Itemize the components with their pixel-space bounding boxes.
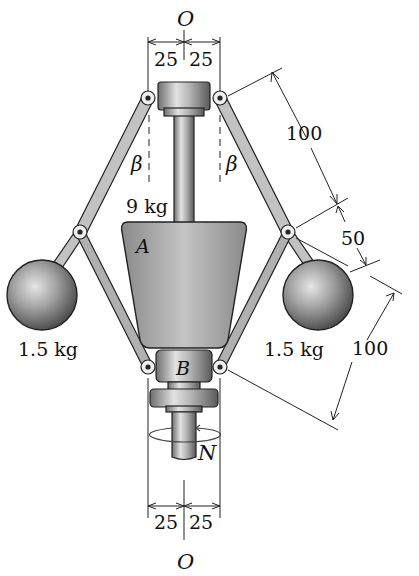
shaft <box>174 112 194 232</box>
governor-diagram: O O 25 25 25 25 100 50 100 β β 9 kg A B … <box>0 0 419 576</box>
left-ball-mass: 1.5 kg <box>18 338 78 360</box>
top-dim-left: 25 <box>154 48 178 70</box>
beta-label-left: β <box>130 152 143 176</box>
right-ball-mass: 1.5 kg <box>264 338 324 360</box>
center-mass-label: 9 kg <box>126 195 168 217</box>
top-collar <box>158 82 210 116</box>
axis-label-top: O <box>177 7 194 31</box>
link-dim-upper: 100 <box>286 122 322 144</box>
left-ball <box>7 260 77 330</box>
axis-label-bottom: O <box>177 550 194 574</box>
link-dim-middle: 50 <box>341 227 365 249</box>
right-ball <box>283 260 353 330</box>
diagram-svg: O O 25 25 25 25 100 50 100 β β 9 kg A B … <box>0 0 419 576</box>
top-dim-right: 25 <box>189 48 213 70</box>
bottom-dim-right: 25 <box>189 511 213 533</box>
beta-label-right: β <box>225 152 238 176</box>
collar-a-label: A <box>134 235 150 257</box>
rotation-label: N <box>197 441 217 465</box>
collar-b-label: B <box>175 357 190 379</box>
link-dim-lower: 100 <box>352 337 388 359</box>
bottom-dim-left: 25 <box>154 511 178 533</box>
